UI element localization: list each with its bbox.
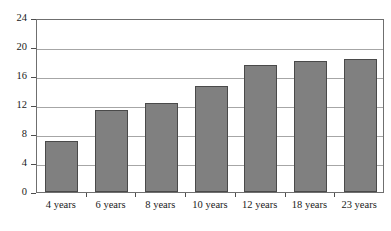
y-tick-label: 8 [0,129,27,140]
x-tick-mark [86,193,87,197]
y-tick-label: 0 [0,187,27,198]
x-tick-mark [135,193,136,197]
gridline [37,49,383,50]
x-tick-label: 12 years [235,200,285,211]
bar [294,61,327,192]
x-tick-label: 8 years [135,200,185,211]
bar [344,59,377,192]
y-tick-mark [31,164,36,165]
y-tick-label: 16 [0,71,27,82]
plot-area [36,19,384,193]
y-tick-mark [31,77,36,78]
x-tick-label: 4 years [36,200,86,211]
x-tick-mark [285,193,286,197]
y-tick-label: 24 [0,13,27,24]
bar-chart: 04812162024 4 years6 years8 years10 year… [0,0,391,231]
x-tick-label: 18 years [285,200,335,211]
bar [95,110,128,192]
y-tick-mark [31,48,36,49]
bar [244,65,277,192]
bar [145,103,178,192]
y-tick-label: 4 [0,158,27,169]
y-tick-mark [31,135,36,136]
x-tick-mark [334,193,335,197]
y-tick-label: 12 [0,100,27,111]
y-tick-label: 20 [0,42,27,53]
gridline [37,78,383,79]
x-tick-mark [185,193,186,197]
y-tick-mark [31,193,36,194]
bar [195,86,228,192]
x-tick-label: 6 years [86,200,136,211]
bar [45,141,78,192]
x-tick-label: 10 years [185,200,235,211]
y-tick-mark [31,106,36,107]
y-tick-mark [31,19,36,20]
x-tick-mark [235,193,236,197]
x-tick-label: 23 years [334,200,384,211]
